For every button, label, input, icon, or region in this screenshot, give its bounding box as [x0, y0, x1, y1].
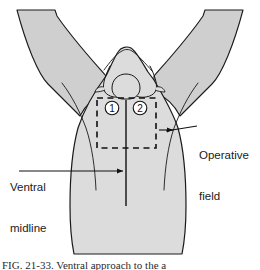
ventral-midline-label-line1: Ventral [10, 181, 46, 195]
marker-1: 1 [105, 101, 119, 115]
marker-1-label: 1 [109, 103, 115, 114]
figure-caption: FIG. 21-33. Ventral approach to the a [2, 259, 166, 270]
operative-field-label-line1: Operative [199, 149, 249, 163]
ventral-midline-label: Ventral midline [10, 154, 46, 262]
marker-2: 2 [133, 101, 147, 115]
central-lobe-shape [112, 74, 140, 99]
marker-2-label: 2 [137, 103, 143, 114]
right-limb-shape [154, 10, 243, 116]
operative-field-label: Operative field [199, 122, 249, 230]
figure-container: 1 2 Operative field Ventral midline FIG.… [0, 0, 260, 270]
operative-field-label-line2: field [199, 190, 249, 204]
ventral-midline-label-line2: midline [10, 222, 46, 236]
